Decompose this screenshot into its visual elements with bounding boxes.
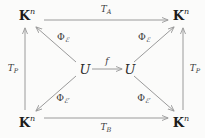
kn-symbol: K	[173, 115, 184, 130]
object-bottom-left-kn: Kn	[19, 115, 35, 128]
label-bottom-edge-TB: TB	[101, 123, 112, 134]
label-diagonal-up-right-phi: Φℰ	[138, 32, 150, 44]
commutative-diagram: Kn Kn Kn Kn U U TA TB TP TP f Φℰ Φℰ Φℰ′ …	[0, 0, 205, 138]
label-diagonal-up-left-phi: Φℰ	[57, 32, 69, 44]
edge-diagonal-up-left-phi	[36, 27, 76, 62]
object-top-left-kn: Kn	[19, 8, 35, 21]
label-diagonal-down-left-phi-prime: Φℰ′	[56, 93, 69, 105]
object-bottom-right-kn: Kn	[173, 115, 189, 128]
kn-superscript: n	[184, 7, 189, 16]
object-center-left-u: U	[80, 63, 91, 76]
object-top-right-kn: Kn	[173, 8, 189, 21]
label-right-edge-TP: TP	[190, 64, 200, 75]
kn-symbol: K	[19, 115, 30, 130]
kn-symbol: K	[19, 8, 30, 23]
label-top-edge-TA: TA	[101, 5, 112, 16]
kn-superscript: n	[184, 114, 189, 123]
kn-superscript: n	[30, 7, 35, 16]
label-center-edge-f: f	[105, 57, 108, 66]
object-center-right-u: U	[125, 63, 136, 76]
label-diagonal-down-right-phi-prime: Φℰ′	[137, 93, 150, 105]
kn-superscript: n	[30, 114, 35, 123]
label-left-edge-TP: TP	[8, 64, 18, 75]
kn-symbol: K	[173, 8, 184, 23]
